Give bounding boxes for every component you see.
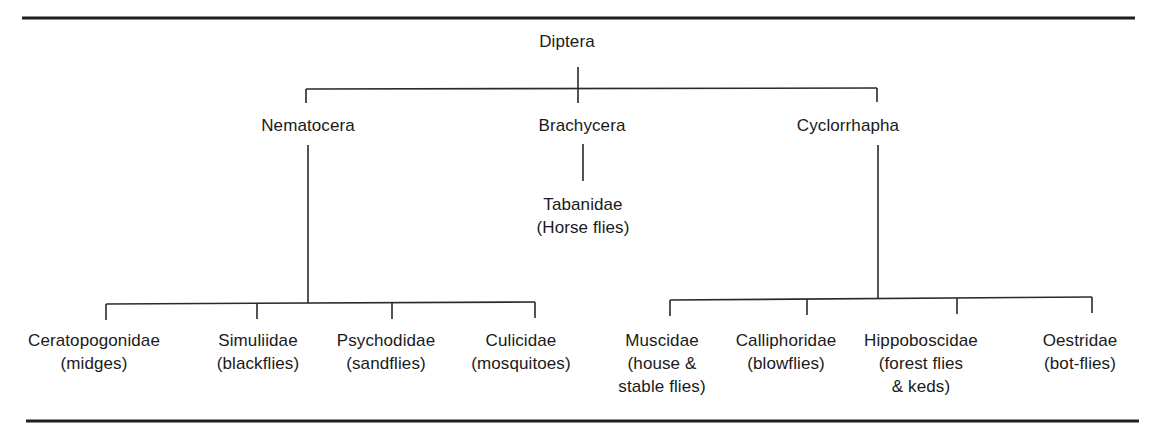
family-node-hippoboscidae: Hippoboscidae (forest flies & keds) [864, 329, 978, 398]
family-common-name: (sandflies) [337, 352, 435, 375]
family-common-name: (forest flies [864, 352, 978, 375]
family-common-name: (Horse flies) [537, 216, 630, 239]
family-name: Simuliidae [217, 329, 299, 352]
node-label: Nematocera [261, 114, 355, 137]
family-common-name: (blackflies) [217, 352, 299, 375]
node-label: Brachycera [539, 114, 626, 137]
family-common-name: (midges) [28, 352, 160, 375]
family-name: Muscidae [618, 329, 705, 352]
family-node-simuliidae: Simuliidae (blackflies) [217, 329, 299, 375]
family-node-psychodidae: Psychodidae (sandflies) [337, 329, 435, 375]
family-common-name: (blowflies) [736, 352, 837, 375]
family-node-tabanidae: Tabanidae (Horse flies) [537, 193, 630, 239]
family-name: Hippoboscidae [864, 329, 978, 352]
family-name: Ceratopogonidae [28, 329, 160, 352]
family-name: Calliphoridae [736, 329, 837, 352]
family-common-name-line2: stable flies) [618, 375, 705, 398]
cyclorrhapha-family-bar [670, 297, 1092, 300]
family-node-muscidae: Muscidae (house & stable flies) [618, 329, 705, 398]
family-node-culicidae: Culicidae (mosquitoes) [471, 329, 570, 375]
suborder-node-brachycera: Brachycera [539, 114, 626, 137]
family-node-calliphoridae: Calliphoridae (blowflies) [736, 329, 837, 375]
suborder-bar [306, 88, 877, 89]
suborder-node-nematocera: Nematocera [261, 114, 355, 137]
family-node-ceratopogonidae: Ceratopogonidae (midges) [28, 329, 160, 375]
family-common-name-line2: & keds) [864, 375, 978, 398]
family-common-name: (bot-flies) [1043, 352, 1118, 375]
family-name: Tabanidae [537, 193, 630, 216]
family-name: Oestridae [1043, 329, 1118, 352]
family-common-name: (house & [618, 352, 705, 375]
node-label: Diptera [539, 30, 595, 53]
nematocera-family-bar [106, 302, 535, 304]
family-name: Psychodidae [337, 329, 435, 352]
diptera-taxonomy-diagram: Diptera Nematocera Brachycera Cyclorrhap… [0, 0, 1157, 425]
family-node-oestridae: Oestridae (bot-flies) [1043, 329, 1118, 375]
family-common-name: (mosquitoes) [471, 352, 570, 375]
family-name: Culicidae [471, 329, 570, 352]
node-label: Cyclorrhapha [797, 114, 899, 137]
root-node-diptera: Diptera [539, 30, 595, 53]
suborder-node-cyclorrhapha: Cyclorrhapha [797, 114, 899, 137]
